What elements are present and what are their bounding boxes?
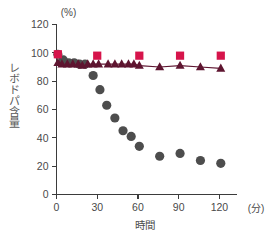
square-series (54, 50, 225, 60)
y-unit-label: (%) (61, 7, 77, 18)
y-tick-label: 120 (31, 18, 49, 30)
x-unit-label: (分) (248, 203, 265, 214)
data-point-square (93, 52, 101, 60)
data-point-circle (155, 152, 164, 161)
data-point-square (54, 50, 62, 58)
x-tick-label: 120 (211, 201, 229, 213)
chart-figure: レボドパ含量 0204060801001200306090120(%)(分)時間 (0, 0, 268, 239)
y-tick-label: 60 (37, 103, 49, 115)
x-tick-label: 0 (54, 201, 60, 213)
y-tick-label: 80 (37, 75, 49, 87)
data-point-triangle (155, 62, 164, 70)
data-point-square (135, 52, 143, 60)
y-tick-label: 40 (37, 132, 49, 144)
data-point-circle (216, 159, 225, 168)
data-point-circle (89, 71, 98, 80)
y-tick-label: 0 (43, 188, 49, 200)
data-point-circle (135, 142, 144, 151)
data-point-square (217, 52, 225, 60)
data-point-circle (102, 101, 111, 110)
x-tick-label: 30 (91, 201, 103, 213)
data-point-triangle (216, 64, 225, 72)
data-point-circle (110, 113, 119, 122)
data-point-triangle (176, 61, 185, 69)
data-point-triangle (196, 62, 205, 70)
data-point-square (176, 52, 184, 60)
data-point-triangle (94, 59, 103, 67)
x-axis-title: 時間 (135, 219, 155, 231)
y-tick-label: 20 (37, 160, 49, 172)
data-point-circle (196, 156, 205, 165)
data-point-circle (175, 149, 184, 158)
chart-plot-area: 0204060801001200306090120(%)(分)時間 (0, 0, 268, 239)
x-tick-label: 90 (173, 201, 185, 213)
y-tick-label: 100 (31, 47, 49, 59)
data-point-circle (95, 85, 104, 94)
data-point-circle (127, 132, 136, 141)
data-point-circle (118, 126, 127, 135)
x-tick-label: 60 (132, 201, 144, 213)
